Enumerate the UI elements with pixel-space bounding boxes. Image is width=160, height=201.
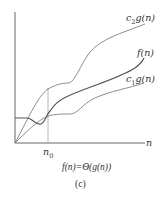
f-label: f(n) xyxy=(137,48,154,58)
x-axis-label: n xyxy=(146,138,152,148)
c1g-label: c1g(n) xyxy=(126,74,155,86)
caption-panel: (c) xyxy=(75,180,86,190)
n0-label: n0 xyxy=(43,147,53,159)
f-curve xyxy=(15,58,144,124)
caption-formula: f(n)=Θ(g(n)) xyxy=(62,163,111,173)
c1g-curve xyxy=(15,83,144,143)
theta-notation-figure: c2g(n) f(n) c1g(n) n n0 f(n)=Θ(g(n)) (c) xyxy=(0,0,160,201)
c2g-label: c2g(n) xyxy=(126,13,155,25)
